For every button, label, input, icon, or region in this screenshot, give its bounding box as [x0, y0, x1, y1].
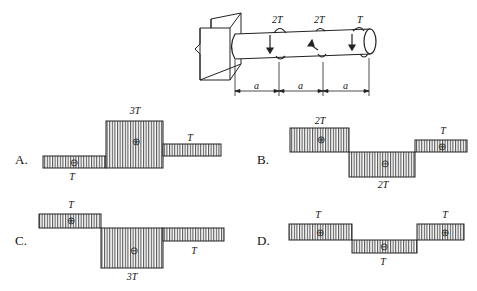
sign-plus-icon: ⊕ [317, 134, 325, 145]
option-a[interactable]: A. ⊖ ⊕ T 3T T [15, 105, 221, 182]
sign-plus-icon: ⊕ [67, 215, 75, 226]
segment-value: T [191, 245, 198, 256]
option-c[interactable]: C. ⊕ ⊖ T 3T T [15, 199, 224, 282]
shaft-figure: 2T 2T T a [195, 13, 376, 96]
sign-plus-icon: ⊕ [441, 227, 449, 238]
option-b[interactable]: B. ⊕ ⊖ ⊕ 2T 2T T [257, 115, 467, 190]
segment-value: T [187, 132, 194, 143]
torque-label-1: 2T [272, 14, 284, 25]
segment-value: 3T [126, 271, 139, 282]
dim-label-3: a [343, 80, 348, 91]
option-d[interactable]: D. ⊕ ⊖ ⊕ T T T [257, 209, 464, 267]
segment-value: T [440, 125, 447, 136]
segment-value: T [69, 171, 76, 182]
segment-value: 2T [378, 179, 390, 190]
segment-value: T [315, 209, 322, 220]
option-d-letter: D. [257, 233, 270, 248]
segment-value: 3T [129, 105, 142, 116]
torque-label-2: 2T [314, 14, 326, 25]
dim-label-1: a [254, 80, 259, 91]
option-a-letter: A. [15, 152, 28, 167]
torque-diagram: 2T 2T T a [0, 0, 477, 291]
option-b-letter: B. [257, 152, 269, 167]
sign-minus-icon: ⊖ [381, 158, 389, 169]
sign-minus-icon: ⊖ [70, 157, 78, 168]
segment-value: T [68, 199, 75, 210]
sign-minus-icon: ⊖ [130, 245, 138, 256]
segment-value: T [380, 256, 387, 267]
sign-plus-icon: ⊕ [316, 227, 324, 238]
dim-label-2: a [298, 80, 303, 91]
sign-minus-icon: ⊖ [380, 241, 388, 252]
torque-label-3: T [357, 14, 364, 25]
sign-plus-icon: ⊕ [438, 141, 446, 152]
shaft [232, 29, 377, 59]
segment-value: 2T [315, 115, 327, 126]
option-c-letter: C. [15, 233, 27, 248]
segment-value: T [442, 209, 449, 220]
sign-plus-icon: ⊕ [132, 136, 140, 147]
